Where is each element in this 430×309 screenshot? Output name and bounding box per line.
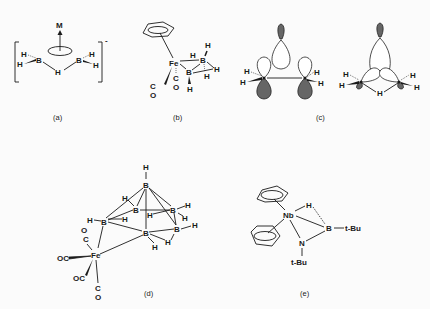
atom-b: B xyxy=(186,68,192,77)
atom-h: H xyxy=(185,201,191,210)
atom-c: C xyxy=(173,74,179,83)
bond xyxy=(192,64,200,70)
atom-h: H xyxy=(165,238,171,247)
wedge-bond xyxy=(188,76,191,84)
bond xyxy=(295,206,305,211)
bond xyxy=(171,234,174,240)
cp-ellipse xyxy=(148,27,168,34)
wedge-bond xyxy=(205,51,207,56)
atom-h: H xyxy=(410,71,416,80)
bond xyxy=(43,62,55,70)
bond xyxy=(128,200,134,206)
orbital-lobe-upper xyxy=(298,57,312,78)
panel-a: - M B B H H H H H (a) xyxy=(15,21,108,122)
atom-h: H xyxy=(89,50,95,59)
panel-e: Nb H B t-Bu N t-Bu (e) xyxy=(251,186,361,298)
atom-h: H xyxy=(240,78,246,87)
atom-o: O xyxy=(150,91,156,100)
atom-b-right: B xyxy=(76,56,82,65)
hashed-bond xyxy=(401,75,409,80)
atom-h: H xyxy=(414,83,420,92)
atom-nb: Nb xyxy=(283,211,294,220)
bond xyxy=(94,220,101,221)
atom-h-bridge: H xyxy=(377,89,383,98)
atom-o: O xyxy=(81,226,87,235)
atom-h: H xyxy=(143,163,149,172)
atom-c: C xyxy=(150,82,156,91)
atom-b: B xyxy=(170,206,176,215)
atom-h: H xyxy=(187,85,193,94)
atom-h: H xyxy=(122,194,128,203)
t-bu-group: t-Bu xyxy=(291,258,307,267)
atom-h: H xyxy=(306,201,312,210)
atom-b: B xyxy=(174,225,180,234)
atom-h: H xyxy=(190,51,196,60)
bond xyxy=(180,60,199,61)
wedge-bond xyxy=(247,77,262,82)
arrowhead xyxy=(58,30,63,35)
caption-e: (e) xyxy=(300,289,310,298)
atom-h: H xyxy=(147,211,153,220)
panel-d: H B B B B B B H H H H H xyxy=(57,163,198,302)
caption-c: (c) xyxy=(316,113,325,122)
atom-n: N xyxy=(299,239,305,248)
atom-c: C xyxy=(95,284,101,293)
atom-b: B xyxy=(133,206,139,215)
bond xyxy=(160,33,173,58)
atom-fe: Fe xyxy=(91,251,101,260)
wedge-bond xyxy=(69,256,91,259)
bond xyxy=(181,226,191,229)
atom-oc: OC xyxy=(57,254,69,263)
bond xyxy=(87,244,92,250)
bond xyxy=(28,55,36,58)
atom-h: H xyxy=(339,81,345,90)
atom-h: H xyxy=(152,243,158,252)
atom-o: O xyxy=(95,293,101,302)
atom-h: H xyxy=(343,70,349,79)
bond xyxy=(384,83,398,92)
orbital-lobe-left xyxy=(361,68,381,82)
orbital-lobe-small xyxy=(278,24,284,39)
cp-ellipse xyxy=(254,232,276,241)
chemistry-figure: - M B B H H H H H (a) Fe C O C O xyxy=(0,0,430,309)
caption-a: (a) xyxy=(53,113,63,122)
wedge-bond xyxy=(85,259,93,276)
wedge-bond xyxy=(164,67,172,85)
atom-h: H xyxy=(214,65,220,74)
bond xyxy=(207,62,214,68)
atom-h: H xyxy=(205,41,211,50)
atom-o: O xyxy=(173,83,179,92)
atom-b-left: B xyxy=(36,56,42,65)
hashed-bond xyxy=(350,75,359,80)
boron-center xyxy=(303,76,306,79)
wedge-bond xyxy=(24,59,36,64)
orbital-lobe-large xyxy=(370,38,391,71)
panel-c: H H H H H H H H H (c) xyxy=(240,23,420,122)
cp-ellipse xyxy=(261,191,283,200)
orbital-lobe-right xyxy=(379,68,399,82)
bond xyxy=(177,206,185,209)
wedge-bond xyxy=(83,60,93,64)
atom-b: B xyxy=(143,229,149,238)
bond xyxy=(148,237,154,243)
atom-h: H xyxy=(318,79,324,88)
atom-h: H xyxy=(244,67,250,76)
atom-h-bridge: H xyxy=(55,68,61,77)
t-bu-group: t-Bu xyxy=(345,224,361,233)
bond xyxy=(150,234,165,240)
atom-h: H xyxy=(204,72,210,81)
atom-fe: Fe xyxy=(169,59,179,68)
orbital-lobe-large xyxy=(272,40,290,69)
atom-h: H xyxy=(122,215,128,224)
atom-b: B xyxy=(101,218,107,227)
bond xyxy=(193,69,213,73)
atom-h: H xyxy=(192,221,198,230)
bond xyxy=(64,62,76,70)
atom-b: B xyxy=(326,224,332,233)
orbital-lobe-lower xyxy=(257,78,271,99)
caption-b: (b) xyxy=(173,113,183,122)
bond xyxy=(362,83,376,92)
atom-h: H xyxy=(17,60,23,69)
atom-b-apex: B xyxy=(143,181,149,190)
bond xyxy=(180,64,186,69)
